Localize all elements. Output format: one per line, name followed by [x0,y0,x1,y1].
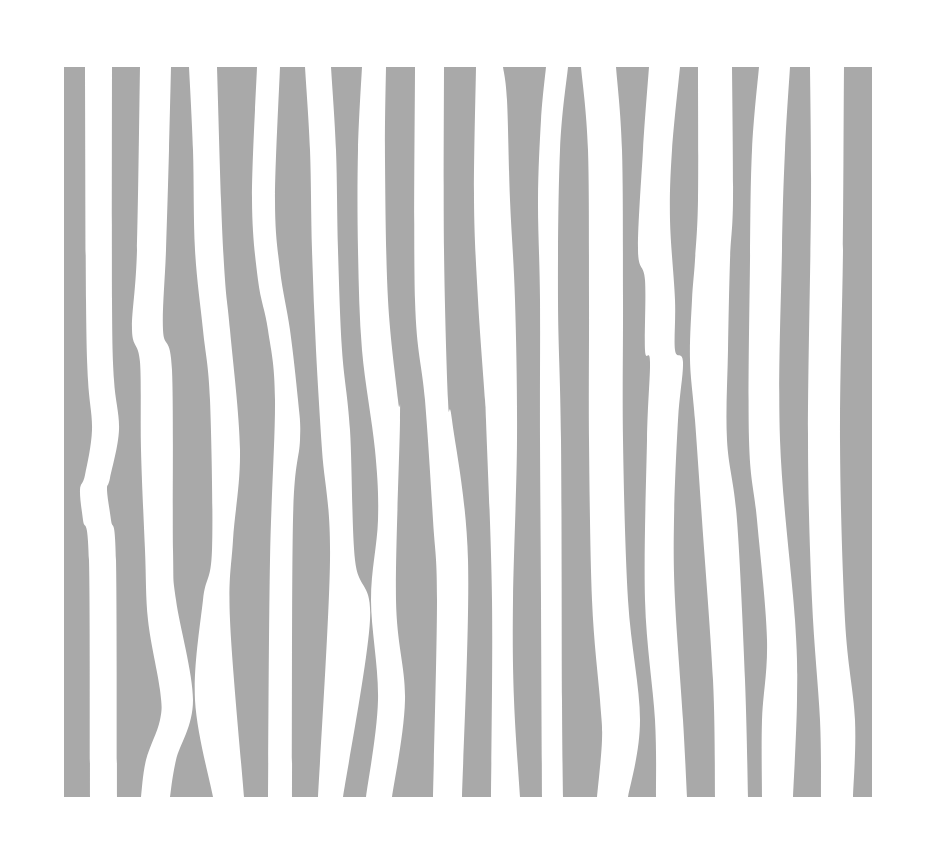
wavy-stripes-artwork [0,0,934,846]
